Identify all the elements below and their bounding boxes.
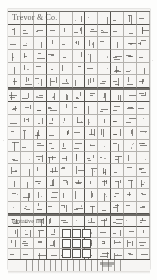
ledger-cell bbox=[111, 115, 124, 127]
ink-mark bbox=[17, 229, 18, 236]
ledger-cell bbox=[8, 227, 21, 238]
ledger-cell bbox=[73, 202, 86, 214]
ink-mark bbox=[139, 57, 143, 58]
checkbox-icon[interactable] bbox=[82, 239, 91, 248]
ledger-cell bbox=[47, 189, 60, 201]
ink-mark bbox=[128, 155, 129, 161]
ink-mark bbox=[62, 158, 67, 159]
ledger-cell bbox=[111, 140, 124, 152]
ink-mark bbox=[13, 108, 18, 109]
ink-mark bbox=[23, 45, 27, 46]
ledger-cell bbox=[98, 202, 111, 214]
ink-mark bbox=[38, 97, 43, 98]
ink-mark bbox=[94, 129, 95, 136]
ledger-cell bbox=[34, 189, 47, 201]
ledger-cell bbox=[137, 12, 150, 25]
ink-mark bbox=[105, 194, 106, 195]
ledger-cell bbox=[21, 90, 34, 102]
ink-mark bbox=[35, 78, 39, 79]
ledger-cell bbox=[111, 227, 124, 238]
ink-mark bbox=[66, 79, 67, 83]
ink-mark bbox=[118, 95, 119, 101]
ink-mark bbox=[37, 167, 38, 171]
scanned-page: Trevor & Co. Tentative list bbox=[0, 0, 157, 280]
ink-mark bbox=[114, 196, 116, 197]
ink-mark bbox=[14, 142, 15, 150]
ink-mark bbox=[11, 92, 12, 100]
ledger-cell bbox=[124, 12, 137, 25]
ink-mark bbox=[41, 79, 42, 86]
ink-mark bbox=[38, 83, 39, 84]
ink-mark bbox=[116, 219, 123, 220]
ledger-cell bbox=[8, 50, 21, 63]
ink-mark bbox=[26, 119, 28, 120]
ledger-cell bbox=[73, 177, 86, 189]
ledger-cell bbox=[21, 152, 34, 164]
ink-mark bbox=[63, 57, 66, 58]
ink-mark bbox=[15, 170, 16, 171]
ledger-cell bbox=[85, 140, 98, 152]
ink-mark bbox=[115, 84, 119, 85]
ink-mark bbox=[105, 93, 106, 101]
ink-mark bbox=[36, 96, 37, 97]
ink-mark bbox=[90, 181, 91, 184]
ledger-cell bbox=[8, 177, 21, 189]
ledger-cell bbox=[137, 50, 150, 63]
ink-mark bbox=[80, 92, 81, 96]
checkbox-icon[interactable] bbox=[62, 249, 71, 258]
ledger-cell bbox=[111, 152, 124, 164]
ink-mark bbox=[129, 192, 130, 196]
ink-mark bbox=[74, 32, 78, 33]
ledger-cell bbox=[124, 227, 137, 238]
checkbox-icon[interactable] bbox=[72, 249, 81, 258]
ledger-cell bbox=[34, 216, 47, 227]
ink-mark bbox=[145, 159, 146, 160]
checkbox-icon[interactable] bbox=[62, 229, 71, 238]
ledger-cell bbox=[98, 90, 111, 102]
ledger-cell bbox=[124, 127, 137, 139]
ledger-cell bbox=[137, 227, 150, 238]
ledger-cell bbox=[124, 152, 137, 164]
ink-mark bbox=[38, 123, 41, 124]
checkbox-icon[interactable] bbox=[82, 249, 91, 258]
ledger-cell bbox=[34, 152, 47, 164]
ledger-cell bbox=[8, 164, 21, 176]
ink-mark bbox=[145, 132, 146, 133]
ink-mark bbox=[25, 234, 28, 235]
ink-mark bbox=[88, 119, 89, 125]
checkbox-icon[interactable] bbox=[62, 239, 71, 248]
ink-mark bbox=[52, 156, 53, 160]
ledger-cell bbox=[137, 37, 150, 50]
ink-mark bbox=[24, 245, 28, 246]
ledger-cell bbox=[124, 189, 137, 201]
ink-mark bbox=[114, 240, 115, 245]
ink-mark bbox=[51, 255, 57, 256]
checkbox-icon[interactable] bbox=[82, 229, 91, 238]
ink-mark bbox=[104, 93, 105, 98]
ledger-cell bbox=[47, 202, 60, 214]
checkbox-icon[interactable] bbox=[72, 239, 81, 248]
ledger-cell bbox=[98, 140, 111, 152]
ink-mark bbox=[115, 156, 122, 157]
ink-mark bbox=[141, 180, 142, 187]
ledger-cell bbox=[98, 152, 111, 164]
ink-mark bbox=[12, 142, 19, 143]
ink-mark bbox=[103, 172, 106, 173]
checkbox-icon[interactable] bbox=[72, 229, 81, 238]
ink-mark bbox=[78, 170, 84, 171]
ink-mark bbox=[26, 43, 27, 44]
ink-mark bbox=[90, 54, 91, 63]
ledger-cell bbox=[47, 115, 60, 127]
ledger-cell bbox=[47, 216, 60, 227]
ink-mark bbox=[50, 245, 53, 246]
ledger-cell bbox=[73, 164, 86, 176]
ledger-cell bbox=[124, 140, 137, 152]
lower-ledger-section: Tentative list bbox=[8, 215, 150, 261]
ledger-cell bbox=[21, 189, 34, 201]
ink-mark bbox=[88, 220, 89, 221]
ink-mark bbox=[129, 15, 130, 23]
ink-mark bbox=[129, 254, 133, 255]
ink-mark bbox=[120, 95, 121, 101]
ink-mark bbox=[129, 95, 135, 96]
ink-mark bbox=[13, 160, 18, 161]
